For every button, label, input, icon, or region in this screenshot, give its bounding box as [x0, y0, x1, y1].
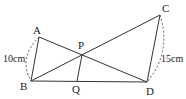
segment-ad — [39, 37, 147, 82]
label-b: B — [20, 80, 27, 92]
measure-label-cd: 15cm — [161, 53, 183, 64]
segment-bc — [31, 15, 160, 81]
segment-pq — [77, 55, 82, 81]
segment-ab — [31, 37, 39, 81]
segment-bd — [31, 81, 147, 82]
label-d: D — [146, 85, 154, 97]
geometry-diagram: A B C D P Q 10cm 15cm — [0, 0, 186, 99]
measure-label-ab: 10cm — [3, 53, 25, 64]
label-q: Q — [72, 83, 80, 95]
label-a: A — [33, 24, 41, 36]
segment-cd — [147, 15, 160, 82]
measure-arc-cd — [147, 15, 164, 82]
label-c: C — [162, 2, 169, 14]
label-p: P — [78, 39, 84, 51]
